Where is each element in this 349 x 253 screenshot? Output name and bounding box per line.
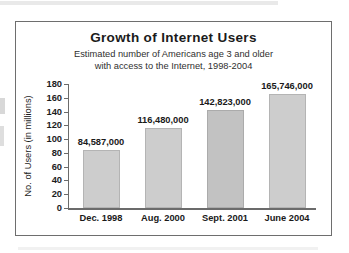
x-axis-category-label: June 2004 <box>265 213 310 223</box>
chart-page: Growth of Internet Users Estimated numbe… <box>0 0 349 253</box>
scan-artifact-left-lower <box>0 126 4 146</box>
bar: 142,823,000 <box>207 110 244 208</box>
scan-artifact-top <box>0 1 278 5</box>
y-axis-tick-label: 180 <box>46 79 62 89</box>
plot-area: No. of Users (in millions) 1801601401201… <box>68 84 316 208</box>
y-axis-tick <box>64 98 68 99</box>
scan-artifact-bottom <box>18 247 318 250</box>
bar: 165,746,000 <box>269 94 306 208</box>
y-axis-tick <box>64 167 68 168</box>
x-axis-category-label: Aug. 2000 <box>141 213 185 223</box>
y-axis-tick <box>64 112 68 113</box>
x-axis-line <box>68 208 316 210</box>
y-axis-tick <box>64 153 68 154</box>
bar: 84,587,000 <box>83 150 120 208</box>
y-axis-tick-label: 40 <box>52 175 62 185</box>
y-axis-tick <box>64 84 68 85</box>
bar-value-label: 142,823,000 <box>199 97 251 107</box>
y-axis-tick-label: 160 <box>46 93 62 103</box>
y-axis-tick-label: 0 <box>57 203 62 213</box>
bar-value-label: 84,587,000 <box>78 137 125 147</box>
y-axis-tick <box>64 180 68 181</box>
y-axis-tick-label: 20 <box>52 189 62 199</box>
chart-subtitle-line-2: with access to the Internet, 1998-2004 <box>16 61 331 73</box>
y-axis-tick-label: 140 <box>46 107 62 117</box>
y-axis-tick <box>64 208 68 209</box>
x-axis-category-label: Dec. 1998 <box>80 213 123 223</box>
y-axis-line <box>68 84 69 208</box>
chart-title: Growth of Internet Users <box>16 30 331 45</box>
y-axis-tick-label: 80 <box>52 148 62 158</box>
y-axis-title: No. of Users (in millions) <box>23 95 33 196</box>
chart-subtitle-line-1: Estimated number of Americans age 3 and … <box>16 49 331 61</box>
scan-artifact-left-upper <box>0 98 5 114</box>
y-axis-tick-label: 100 <box>46 134 62 144</box>
bar: 116,480,000 <box>145 128 182 208</box>
bar-value-label: 165,746,000 <box>261 81 313 91</box>
chart-frame: Growth of Internet Users Estimated numbe… <box>15 21 332 236</box>
y-axis-tick-label: 120 <box>46 120 62 130</box>
y-axis-tick <box>64 194 68 195</box>
x-axis-category-label: Sept. 2001 <box>202 213 248 223</box>
y-axis-tick-label: 60 <box>52 162 62 172</box>
y-axis-tick <box>64 139 68 140</box>
y-axis-tick <box>64 125 68 126</box>
chart-subtitle: Estimated number of Americans age 3 and … <box>16 49 331 72</box>
bar-value-label: 116,480,000 <box>137 115 188 125</box>
